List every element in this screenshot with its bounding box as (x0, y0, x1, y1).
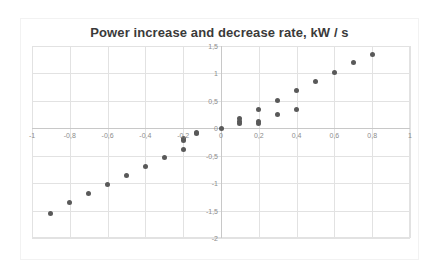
y-tick-label: 1 (205, 70, 218, 77)
chart-container: Power increase and decrease rate, kW / s… (20, 18, 419, 260)
data-point (105, 182, 110, 187)
plot-border-left (32, 46, 33, 238)
chart-title: Power increase and decrease rate, kW / s (21, 25, 418, 40)
y-tick-label: -0,5 (205, 152, 218, 159)
gridline-horizontal (32, 238, 410, 239)
data-point (351, 60, 356, 65)
data-point (86, 191, 91, 196)
gridline-vertical (145, 46, 146, 238)
plot-area: -1-0,8-0,6-0,4-0,200,20,40,60,81 1,510,5… (32, 46, 410, 238)
x-tick-label: -0,2 (177, 132, 189, 139)
x-tick-label: 0 (219, 132, 223, 139)
data-point (162, 155, 167, 160)
x-tick-label: -0,4 (139, 132, 151, 139)
gridline-vertical (372, 46, 373, 238)
data-point (237, 121, 242, 126)
x-tick-label: -0,8 (64, 132, 76, 139)
gridline-vertical (259, 46, 260, 238)
data-point (275, 98, 280, 103)
x-tick-label: 0,8 (367, 132, 377, 139)
data-point (194, 130, 199, 135)
data-point (275, 112, 280, 117)
data-point (124, 173, 129, 178)
data-point (143, 164, 148, 169)
x-tick-label: -1 (29, 132, 35, 139)
data-point (219, 126, 224, 131)
x-tick-label: 0,2 (254, 132, 264, 139)
data-point (294, 88, 299, 93)
y-tick-label: 1,5 (205, 43, 218, 50)
x-tick-label: 0,6 (330, 132, 340, 139)
gridline-vertical (70, 46, 71, 238)
gridline-vertical (297, 46, 298, 238)
gridline-vertical (410, 46, 411, 238)
y-tick-label: -2 (205, 235, 218, 242)
data-point (181, 147, 186, 152)
data-point (313, 79, 318, 84)
x-tick-label: 1 (408, 132, 412, 139)
data-point (256, 121, 261, 126)
plot-border-right (409, 46, 410, 238)
gridline-vertical (108, 46, 109, 238)
data-point (294, 107, 299, 112)
data-point (256, 107, 261, 112)
x-tick-label: 0,4 (292, 132, 302, 139)
y-tick-label: -1 (205, 180, 218, 187)
y-tick-label: 0,5 (205, 97, 218, 104)
data-point (332, 70, 337, 75)
y-tick-label: 0 (205, 125, 218, 132)
x-tick-label: -0,6 (102, 132, 114, 139)
data-point (48, 211, 53, 216)
y-tick-label: -1,5 (205, 207, 218, 214)
data-point (67, 200, 72, 205)
data-point (370, 52, 375, 57)
y-axis-line (221, 46, 222, 238)
